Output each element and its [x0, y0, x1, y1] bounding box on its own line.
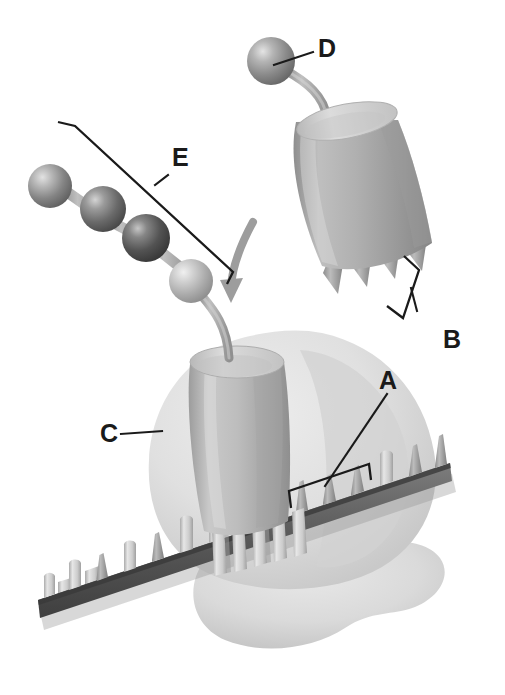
label-B-text: B [443, 325, 461, 353]
chain-sphere-4 [169, 259, 213, 303]
label-E-text: E [172, 143, 189, 171]
motion-arrow [220, 222, 253, 303]
diagram-illustration: E D B A C [0, 0, 505, 695]
chain-sphere-1 [28, 164, 72, 208]
chain-sphere-2 [80, 186, 126, 232]
label-C-text: C [100, 419, 118, 447]
sphere-chain-filament [28, 164, 213, 303]
label-D-text: D [318, 34, 336, 62]
annotation-B[interactable]: B [387, 256, 461, 353]
chain-sphere-3 [122, 214, 170, 262]
figure-canvas: E D B A C [0, 0, 505, 695]
label-A-text: A [379, 366, 397, 394]
